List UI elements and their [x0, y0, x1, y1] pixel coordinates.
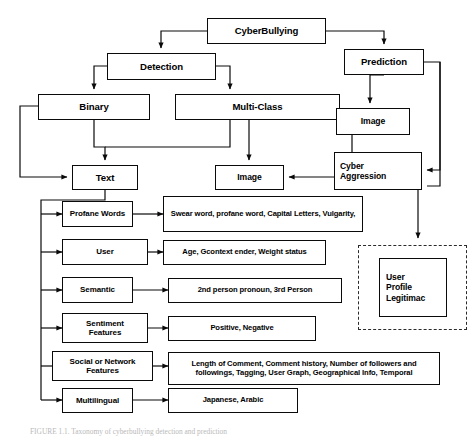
feature-label-social-or-network-features[interactable]: Social or Network Features — [52, 351, 153, 381]
node-user-profile-legitimacy[interactable]: User Profile Legitimac — [379, 258, 447, 317]
node-binary[interactable]: Binary — [38, 94, 150, 120]
node-prediction-image[interactable]: Image — [336, 108, 410, 135]
feature-detail-multilingual: Japanese, Arabic — [168, 388, 298, 413]
feature-label-profane-words[interactable]: Profane Words — [62, 201, 133, 227]
feature-label-multilingual[interactable]: Multilingual — [62, 388, 133, 413]
feature-label-sentiment-features[interactable]: Sentiment Features — [62, 313, 148, 343]
feature-detail-social-or-network-features: Length of Comment, Comment history, Numb… — [168, 352, 440, 385]
node-text[interactable]: Text — [72, 165, 138, 190]
diagram-canvas: CyberBullying Detection Prediction Binar… — [0, 0, 476, 443]
node-multi-class[interactable]: Multi-Class — [175, 94, 340, 120]
feature-detail-semantic: 2nd person pronoun, 3rd Person — [168, 278, 342, 303]
feature-label-semantic[interactable]: Semantic — [62, 277, 133, 303]
node-cyberbullying[interactable]: CyberBullying — [207, 18, 326, 44]
figure-caption: FIGURE 1.1. Taxonomy of cyberbullying de… — [30, 427, 460, 436]
feature-label-user[interactable]: User — [62, 239, 148, 265]
feature-detail-sentiment-features: Positive, Negative — [168, 316, 316, 341]
node-prediction[interactable]: Prediction — [344, 49, 424, 75]
node-cyber-aggression[interactable]: Cyber Aggression — [334, 152, 422, 190]
feature-detail-user: Age, Gcontext ender, Weight status — [163, 240, 326, 265]
node-detection[interactable]: Detection — [107, 53, 216, 80]
feature-detail-profane-words: Swear word, profane word, Capital Letter… — [163, 196, 363, 232]
node-detection-image[interactable]: Image — [215, 165, 284, 190]
